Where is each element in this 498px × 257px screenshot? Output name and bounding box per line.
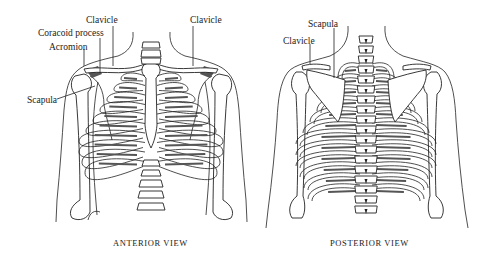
right-clavicle — [154, 64, 218, 73]
intercostal-muscle — [109, 107, 137, 108]
intercostal-muscle — [322, 158, 357, 159]
label-coracoid-process: Coracoid process — [38, 28, 104, 38]
label-posterior-scapula: Scapula — [308, 19, 339, 29]
caption-anterior-view: ANTERIOR VIEW — [113, 238, 188, 248]
intercostal-muscle — [119, 88, 137, 89]
intercostal-muscle — [104, 116, 137, 117]
posterior-right-clavicle — [403, 64, 431, 70]
intercostal-muscle — [165, 78, 178, 79]
label-clavicle-right: Clavicle — [190, 15, 222, 25]
intercostal-muscle — [165, 154, 205, 155]
intercostal-muscle — [326, 180, 356, 181]
intercostal-muscle — [376, 169, 408, 170]
posterior-view: Scapula Clavicle POSTERIOR VIEW — [266, 19, 468, 248]
anterior-rib — [157, 159, 217, 180]
label-acromion: Acromion — [49, 42, 88, 52]
intercostal-muscle — [114, 97, 137, 98]
intercostal-muscle — [95, 135, 137, 136]
posterior-right-scapula — [388, 70, 426, 122]
posterior-left-clavicle — [302, 64, 330, 70]
intercostal-muscle — [165, 126, 203, 127]
intercostal-muscle — [165, 97, 188, 98]
left-clavicle — [84, 64, 148, 73]
intercostal-muscle — [376, 180, 406, 181]
intercostal-muscle — [322, 147, 357, 148]
posterior-left-scapula — [307, 70, 345, 122]
intercostal-muscle — [165, 164, 203, 165]
posterior-left-humerus — [290, 72, 310, 218]
intercostal-muscle — [165, 107, 193, 108]
intercostal-muscle — [376, 70, 387, 71]
anterior-rib — [157, 121, 216, 136]
intercostal-muscle — [165, 88, 183, 89]
anterior-view: Clavicle Clavicle Coracoid process Acrom… — [27, 15, 247, 248]
caption-posterior-view: POSTERIOR VIEW — [330, 238, 409, 248]
label-clavicle-left: Clavicle — [86, 15, 118, 25]
intercostal-muscle — [345, 70, 356, 71]
intercostal-muscle — [165, 116, 198, 117]
intercostal-muscle — [328, 191, 356, 192]
thorax-diagram: Clavicle Clavicle Coracoid process Acrom… — [0, 0, 498, 257]
intercostal-muscle — [165, 135, 207, 136]
anterior-rib — [86, 121, 145, 136]
vertebral-column — [355, 36, 377, 214]
intercostal-muscle — [376, 136, 411, 137]
intercostal-muscle — [97, 154, 137, 155]
intercostal-muscle — [124, 78, 137, 79]
intercostal-muscle — [325, 125, 356, 126]
intercostal-muscle — [376, 191, 404, 192]
intercostal-muscle — [95, 145, 137, 146]
intercostal-muscle — [324, 169, 356, 170]
label-posterior-clavicle: Clavicle — [283, 36, 315, 46]
label-scapula: Scapula — [27, 95, 58, 105]
intercostal-muscle — [376, 158, 411, 159]
intercostal-muscle — [165, 145, 207, 146]
intercostal-muscle — [322, 136, 357, 137]
intercostal-muscle — [376, 147, 411, 148]
intercostal-muscle — [99, 164, 137, 165]
intercostal-muscle — [376, 125, 407, 126]
anterior-cervical-vertebrae — [141, 42, 161, 64]
intercostal-muscle — [100, 126, 138, 127]
